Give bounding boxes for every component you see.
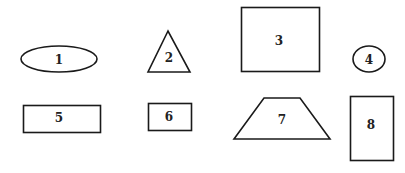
shape-8-rectangle: 8 [351, 97, 394, 161]
shape-3-rectangle: 3 [242, 8, 320, 72]
shape-4-circle: 4 [353, 46, 385, 72]
shape-2-label: 2 [165, 51, 173, 65]
shapes-diagram: 1 2 3 4 5 6 7 8 [0, 0, 405, 173]
shape-4-label: 4 [365, 53, 373, 67]
shape-8-label: 8 [367, 118, 375, 132]
shape-3-label: 3 [275, 34, 283, 48]
shape-7-trapezoid: 7 [234, 98, 330, 139]
shape-5-rectangle: 5 [24, 106, 101, 133]
shape-5-label: 5 [55, 111, 63, 125]
shape-7-label: 7 [278, 113, 286, 127]
shape-1-ellipse: 1 [21, 46, 97, 72]
shape-2-triangle: 2 [148, 31, 190, 72]
shape-6-label: 6 [165, 110, 173, 124]
shape-1-label: 1 [55, 53, 63, 67]
shape-6-rectangle: 6 [149, 104, 192, 131]
